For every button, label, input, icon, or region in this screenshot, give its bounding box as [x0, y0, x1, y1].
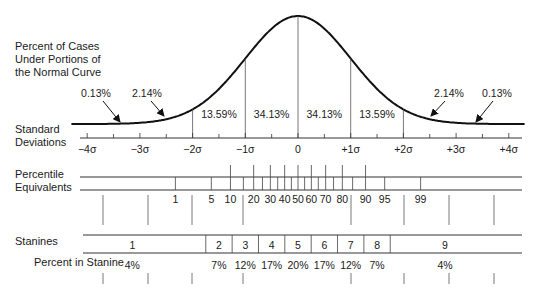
stanine-number: 5 — [295, 239, 301, 251]
percentile-label: 20 — [248, 193, 260, 205]
stanine-number: 9 — [442, 239, 448, 251]
arrow-icon — [103, 101, 120, 122]
axis-tick-label: 0 — [295, 143, 301, 155]
region-percent: 13.59% — [359, 108, 395, 120]
percentile-label: 90 — [360, 193, 372, 205]
percentile-label: 70 — [320, 193, 332, 205]
stanine-percent: 20% — [287, 259, 308, 271]
axis-tick-label: +1σ — [341, 143, 360, 155]
axis-tick-label: +4σ — [500, 143, 519, 155]
stanine-percent: 4% — [437, 259, 452, 271]
arrow-icon — [151, 101, 164, 116]
stanine-percent: 7% — [369, 259, 384, 271]
region-percent: 13.59% — [201, 108, 237, 120]
percentile-label: 5 — [208, 193, 214, 205]
axis-tick-label: −3σ — [131, 143, 150, 155]
stanine-percent: 12% — [340, 259, 361, 271]
normal-curve-diagram: −4σ−3σ−2σ−1σ0+1σ+2σ+3σ+4σ13.59%34.13%34.… — [0, 0, 536, 298]
stanine-percent: 12% — [235, 259, 256, 271]
percentile-label: 80 — [337, 193, 349, 205]
stanine-percent: 17% — [261, 259, 282, 271]
percentile-label: 10 — [225, 193, 237, 205]
axis-tick-label: +2σ — [394, 143, 413, 155]
stanine-percent: 4% — [125, 259, 140, 271]
region-percent: 2.14% — [434, 87, 464, 99]
axis-tick-label: −1σ — [236, 143, 255, 155]
stanine-number: 8 — [374, 239, 380, 251]
stanine-number: 3 — [242, 239, 248, 251]
percentile-label: 1 — [172, 193, 178, 205]
stanine-percent: 17% — [314, 259, 335, 271]
stanine-number: 6 — [321, 239, 327, 251]
stanine-number: 1 — [129, 239, 135, 251]
arrow-icon — [431, 101, 445, 116]
region-percent: 34.13% — [254, 108, 290, 120]
percentile-label: 95 — [379, 193, 391, 205]
axis-tick-label: −2σ — [183, 143, 202, 155]
region-percent: 0.13% — [482, 87, 512, 99]
stanine-number: 2 — [216, 239, 222, 251]
arrow-icon — [476, 101, 493, 122]
percentile-label: 60 — [306, 193, 318, 205]
axis-tick-label: −4σ — [78, 143, 97, 155]
stanine-number: 7 — [348, 239, 354, 251]
percentile-label: 40 — [279, 193, 291, 205]
percentile-label: 30 — [265, 193, 277, 205]
region-percent: 34.13% — [307, 108, 343, 120]
percentile-label: 99 — [415, 193, 427, 205]
stanine-number: 4 — [269, 239, 275, 251]
stanine-percent: 7% — [211, 259, 226, 271]
region-percent: 2.14% — [132, 87, 162, 99]
region-percent: 0.13% — [81, 87, 111, 99]
percentile-label: 50 — [292, 193, 304, 205]
axis-tick-label: +3σ — [447, 143, 466, 155]
